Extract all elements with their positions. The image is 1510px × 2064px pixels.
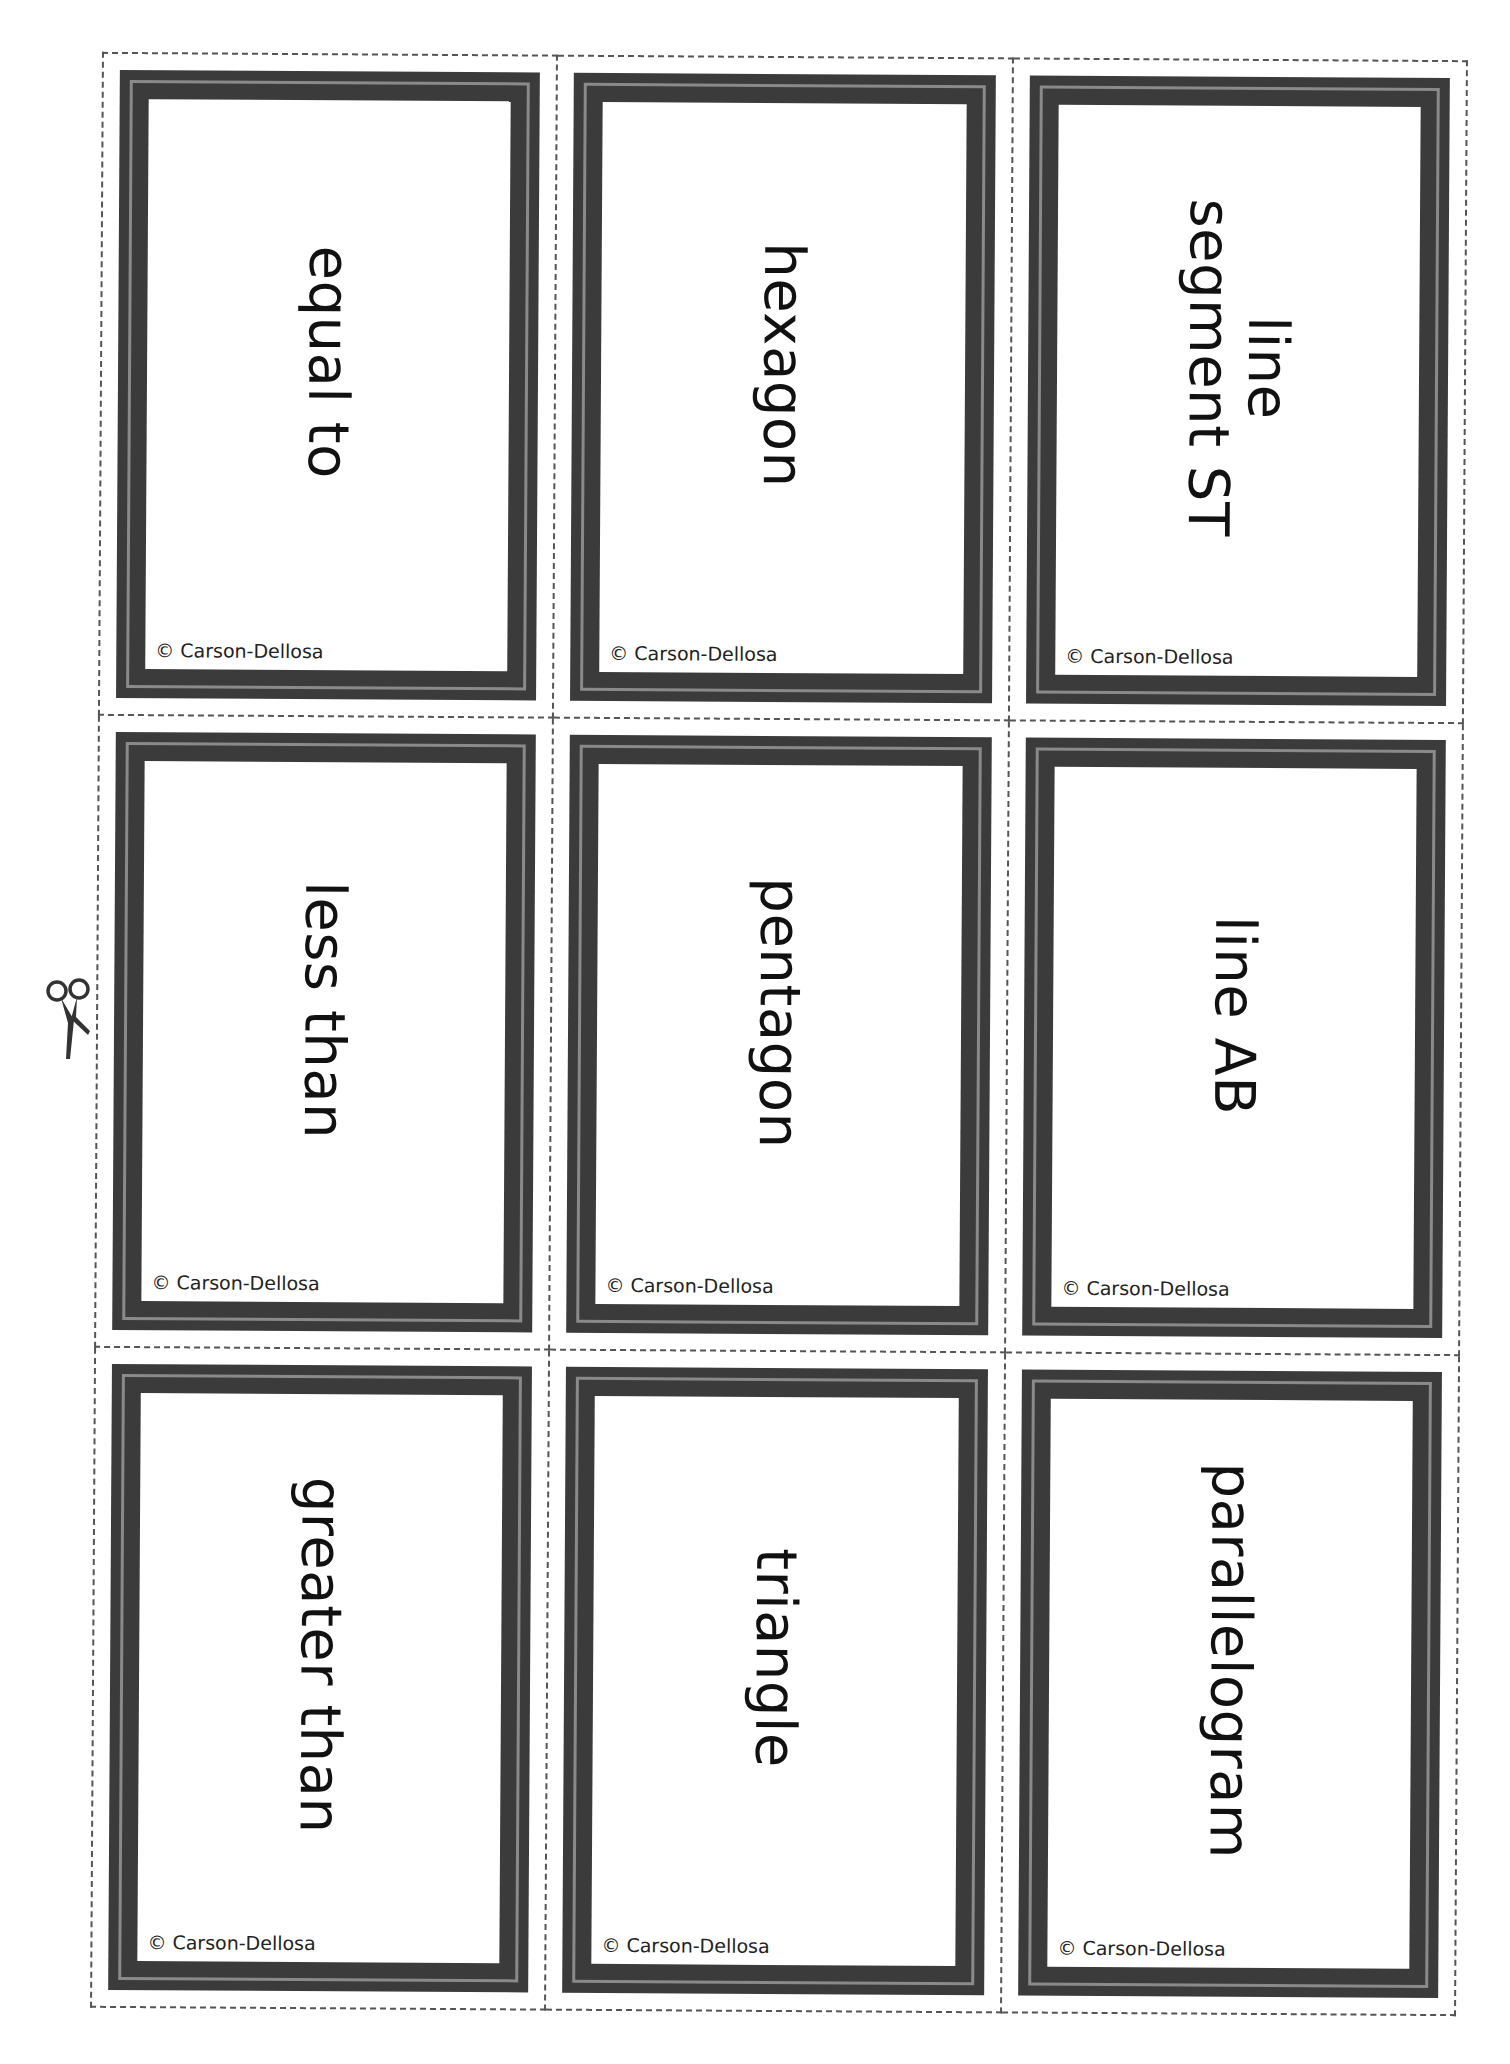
card-term-line: line <box>1237 199 1298 538</box>
card-term-line: equal to <box>298 246 358 480</box>
flashcard: line AB © Carson-Dellosa <box>1022 738 1446 1339</box>
card-face: hexagon © Carson-Dellosa <box>599 102 966 674</box>
copyright-notice: © Carson-Dellosa <box>1065 645 1233 668</box>
card-term-line: line AB <box>1204 916 1264 1115</box>
card-term: parallelogram <box>1200 1463 1261 1860</box>
copyright-notice: © Carson-Dellosa <box>601 1934 769 1957</box>
card-term-line: less than <box>294 881 354 1139</box>
card-cell-line-segment-st: line segment ST © Carson-Dellosa <box>1010 57 1468 724</box>
copyright-notice: © Carson-Dellosa <box>1061 1277 1229 1300</box>
card-face: line AB © Carson-Dellosa <box>1051 767 1416 1309</box>
flashcard-sheet: equal to © Carson-Dellosa hexagon © Cars… <box>90 52 1468 2016</box>
copyright-notice: © Carson-Dellosa <box>151 1271 319 1294</box>
card-cell-pentagon: pentagon © Carson-Dellosa <box>550 719 1010 1354</box>
flashcard: less than © Carson-Dellosa <box>112 732 536 1333</box>
card-term: pentagon <box>749 878 809 1149</box>
scissors-icon <box>44 975 94 1065</box>
card-term-line: pentagon <box>749 878 809 1149</box>
card-cell-less-than: less than © Carson-Dellosa <box>94 716 554 1351</box>
card-face: parallelogram © Carson-Dellosa <box>1047 1399 1412 1969</box>
card-cell-triangle: triangle © Carson-Dellosa <box>546 1351 1006 2014</box>
card-term: greater than <box>290 1477 351 1834</box>
card-face: less than © Carson-Dellosa <box>141 761 506 1303</box>
card-cell-hexagon: hexagon © Carson-Dellosa <box>554 55 1014 722</box>
card-term-line: segment ST <box>1178 199 1239 538</box>
card-face: line segment ST © Carson-Dellosa <box>1055 105 1420 677</box>
copyright-notice: © Carson-Dellosa <box>605 1274 773 1297</box>
card-term-line: hexagon <box>753 242 813 488</box>
card-term: less than <box>294 881 354 1139</box>
card-term: line AB <box>1204 916 1264 1115</box>
copyright-notice: © Carson-Dellosa <box>147 1931 315 1954</box>
card-term: hexagon <box>753 242 813 488</box>
card-face: pentagon © Carson-Dellosa <box>595 764 962 1306</box>
card-cell-parallelogram: parallelogram © Carson-Dellosa <box>1002 1353 1460 2016</box>
flashcard: greater than © Carson-Dellosa <box>108 1364 532 1993</box>
card-face: triangle © Carson-Dellosa <box>591 1396 958 1966</box>
card-term: line segment ST <box>1178 199 1298 538</box>
copyright-notice: © Carson-Dellosa <box>155 639 323 662</box>
card-term: triangle <box>745 1548 805 1768</box>
card-term-line: triangle <box>745 1548 805 1768</box>
flashcard: parallelogram © Carson-Dellosa <box>1018 1369 1442 1998</box>
flashcard: equal to © Carson-Dellosa <box>116 70 540 701</box>
flashcard: pentagon © Carson-Dellosa <box>566 735 992 1336</box>
flashcard: hexagon © Carson-Dellosa <box>570 73 996 704</box>
card-face: greater than © Carson-Dellosa <box>137 1393 502 1963</box>
copyright-notice: © Carson-Dellosa <box>1057 1937 1225 1960</box>
card-term-line: greater than <box>290 1477 351 1834</box>
card-cell-equal-to: equal to © Carson-Dellosa <box>98 52 558 719</box>
card-face: equal to © Carson-Dellosa <box>145 99 510 671</box>
flashcard: triangle © Carson-Dellosa <box>562 1367 988 1996</box>
flashcard: line segment ST © Carson-Dellosa <box>1026 76 1450 707</box>
card-term: equal to <box>298 246 358 480</box>
card-cell-greater-than: greater than © Carson-Dellosa <box>90 1348 550 2011</box>
card-term-line: parallelogram <box>1200 1463 1261 1860</box>
card-cell-line-ab: line AB © Carson-Dellosa <box>1006 721 1464 1356</box>
copyright-notice: © Carson-Dellosa <box>609 642 777 665</box>
